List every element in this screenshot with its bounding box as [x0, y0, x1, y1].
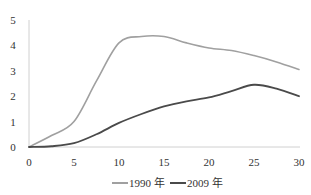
x-tick-label: 0	[26, 156, 32, 168]
series-line-1990	[29, 36, 299, 147]
x-tick-label: 5	[71, 156, 77, 168]
y-tick-label: 3	[10, 65, 16, 77]
series-layer	[29, 36, 299, 147]
x-tick-label: 25	[249, 156, 261, 168]
y-tick-label: 4	[10, 39, 16, 51]
x-tick-label: 15	[159, 156, 171, 168]
legend-label-1990: 1990 年	[129, 176, 165, 189]
y-tick-labels: 0 1 2 3 4 5	[10, 14, 16, 153]
x-tick-label: 20	[204, 156, 216, 168]
legend-label-2009: 2009 年	[187, 176, 223, 189]
y-tick-label: 5	[10, 14, 16, 26]
x-tick-label: 30	[294, 156, 306, 168]
x-tick-label: 10	[114, 156, 126, 168]
legend: 1990 年 2009 年	[112, 176, 223, 189]
y-tick-label: 0	[10, 141, 16, 153]
x-tick-labels: 0 5 10 15 20 25 30	[26, 156, 305, 168]
series-line-2009	[29, 85, 299, 147]
line-chart: 0 1 2 3 4 5 0 5 10 15 20 25 30 1990 年 20…	[0, 0, 311, 195]
y-tick-label: 2	[10, 90, 16, 102]
y-tick-label: 1	[10, 116, 16, 128]
